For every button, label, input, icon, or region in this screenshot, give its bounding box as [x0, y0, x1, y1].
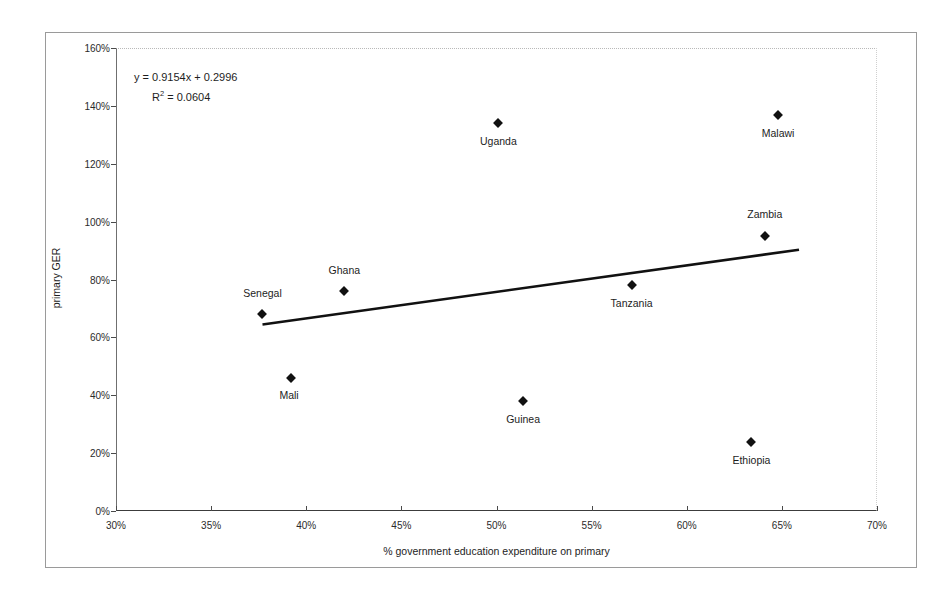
scatter-point-label: Malawi	[762, 127, 795, 139]
plot-area	[116, 48, 877, 511]
x-tick-label: 65%	[772, 520, 792, 531]
x-tick-label: 50%	[486, 520, 506, 531]
scatter-point-label: Uganda	[480, 135, 517, 147]
x-tick-label: 40%	[296, 520, 316, 531]
regression-equation-line: y = 0.9154x + 0.2996	[134, 71, 237, 83]
y-tick-label: 80%	[66, 274, 110, 285]
x-axis-title: % government education expenditure on pr…	[383, 545, 609, 557]
x-tick-label: 30%	[106, 520, 126, 531]
x-tick-mark	[877, 506, 878, 511]
x-tick-mark	[687, 506, 688, 511]
x-tick-label: 70%	[867, 520, 887, 531]
x-tick-mark	[592, 506, 593, 511]
scatter-point-label: Guinea	[506, 413, 540, 425]
y-tick-label: 0%	[66, 506, 110, 517]
y-axis-title: primary GER	[50, 238, 62, 318]
scatter-point-label: Ghana	[329, 264, 361, 276]
x-tick-label: 45%	[391, 520, 411, 531]
y-tick-mark	[111, 511, 116, 512]
x-tick-mark	[211, 506, 212, 511]
x-tick-label: 35%	[201, 520, 221, 531]
scatter-point-label: Tanzania	[611, 297, 653, 309]
y-tick-label: 140%	[66, 100, 110, 111]
x-tick-mark	[306, 506, 307, 511]
x-tick-mark	[401, 506, 402, 511]
x-tick-label: 60%	[677, 520, 697, 531]
r-squared-value: = 0.0604	[164, 91, 210, 103]
y-tick-label: 60%	[66, 332, 110, 343]
x-tick-label: 55%	[582, 520, 602, 531]
r-squared-line: R2 = 0.0604	[134, 87, 237, 107]
scatter-point-label: Ethiopia	[732, 454, 770, 466]
regression-equation-annotation: y = 0.9154x + 0.2996 R2 = 0.0604	[134, 68, 237, 107]
x-tick-mark	[116, 506, 117, 511]
r-squared-prefix: R	[152, 91, 160, 103]
y-tick-label: 20%	[66, 448, 110, 459]
y-tick-label: 100%	[66, 216, 110, 227]
scatter-point-label: Zambia	[747, 208, 782, 220]
scatter-point-label: Mali	[279, 389, 298, 401]
y-tick-label: 160%	[66, 43, 110, 54]
scatter-chart-figure: primary GER 0%20%40%60%80%100%120%140%16…	[0, 0, 948, 598]
x-tick-mark	[782, 506, 783, 511]
y-tick-label: 40%	[66, 390, 110, 401]
x-tick-mark	[497, 506, 498, 511]
scatter-point-label: Senegal	[243, 287, 282, 299]
y-tick-label: 120%	[66, 158, 110, 169]
